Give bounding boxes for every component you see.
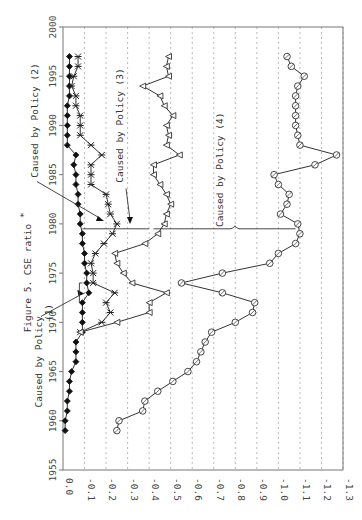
year-tick-label: 1980 (47, 212, 58, 235)
data-point (301, 73, 308, 80)
data-point (64, 132, 70, 138)
data-point (292, 102, 299, 109)
data-point (292, 93, 299, 100)
year-tick-label: 1965 (47, 360, 58, 383)
data-point (73, 172, 79, 178)
data-point (275, 250, 282, 257)
annotation-policy-1: Caused by Policy (33, 316, 44, 408)
data-point (116, 417, 123, 424)
data-point (297, 142, 304, 149)
value-tick-label: -0.8 (236, 478, 247, 501)
data-point (64, 398, 70, 404)
series-diamond (62, 54, 92, 434)
data-point (75, 191, 81, 197)
value-tick-label: 0.0 (64, 478, 75, 495)
year-tick-label: 1985 (47, 163, 58, 186)
value-tick-label: -1.1 (301, 478, 312, 501)
data-point (333, 152, 340, 159)
data-point (66, 63, 72, 69)
data-point (292, 122, 299, 129)
data-point (64, 113, 70, 119)
data-point (277, 211, 284, 218)
data-point (66, 93, 72, 99)
data-point (286, 191, 293, 198)
value-tick-label: -0.4 (150, 478, 161, 501)
data-point (88, 142, 95, 148)
data-point (107, 309, 114, 315)
year-tick-label: 1995 (47, 65, 58, 88)
data-point (66, 388, 72, 394)
axes (59, 27, 343, 470)
data-point (114, 427, 121, 434)
data-point (288, 63, 295, 70)
data-point (163, 191, 169, 197)
data-point (170, 378, 177, 385)
data-point (73, 349, 79, 355)
data-point (163, 290, 169, 296)
annotations: Figure 5. CSE ratio*Caused by Policy(1)C… (18, 63, 296, 407)
data-point (185, 368, 192, 375)
data-point (157, 182, 163, 188)
data-point (82, 250, 88, 256)
data-point (73, 339, 79, 345)
series-line-circle (117, 57, 337, 431)
year-tick-label: 1990 (47, 114, 58, 137)
data-point (77, 211, 83, 217)
data-point (92, 250, 99, 256)
data-point (71, 162, 77, 168)
data-point (294, 132, 301, 139)
value-tick-label: -0.7 (215, 478, 226, 501)
data-point (103, 300, 110, 306)
value-tick-label: -0.9 (258, 478, 269, 501)
data-point (251, 299, 258, 306)
value-tick-label: -1.0 (279, 478, 290, 501)
data-point (84, 270, 90, 276)
annotation-policy-4: Caused by Policy (4) (214, 113, 225, 227)
value-tick-label: -0.3 (129, 478, 140, 501)
data-point (79, 300, 85, 306)
data-point (294, 83, 301, 90)
data-point (178, 280, 185, 287)
data-point (219, 290, 226, 297)
data-point (66, 54, 72, 60)
data-point (249, 309, 256, 316)
data-point (64, 122, 70, 128)
data-point (114, 319, 120, 325)
value-tick-label: -0.1 (86, 478, 97, 501)
arrowhead (77, 290, 84, 296)
data-point (271, 171, 278, 178)
cse-ratio-chart: 0.0-0.1-0.2-0.3-0.4-0.5-0.6-0.7-0.8-0.9-… (0, 0, 362, 520)
value-tick-label: -0.6 (193, 478, 204, 501)
value-axis-ticks: 0.0-0.1-0.2-0.3-0.4-0.5-0.6-0.7-0.8-0.9-… (64, 478, 355, 501)
data-point (64, 408, 70, 414)
data-point (139, 408, 146, 415)
data-point (208, 329, 215, 336)
value-tick-label: -1.3 (344, 478, 355, 501)
series (62, 53, 340, 434)
value-tick-label: -0.5 (172, 478, 183, 501)
plot-frame (63, 27, 343, 470)
data-point (79, 319, 85, 325)
data-point (275, 181, 282, 188)
annotation-policy-3-arrow (126, 188, 130, 220)
annotation-policy-2: Caused by Policy (2) (29, 63, 40, 177)
year-axis-ticks: 1955196019651970197519801985199019952000 (47, 15, 58, 481)
data-point (292, 240, 299, 247)
data-point (86, 290, 92, 296)
data-point (142, 241, 148, 247)
data-point (154, 388, 161, 395)
data-point (142, 398, 149, 405)
year-tick-label: 2000 (47, 15, 58, 38)
data-point (73, 359, 79, 365)
data-point (109, 231, 116, 237)
data-point (292, 112, 299, 119)
chart-title: Figure 5. CSE ratio (22, 223, 33, 332)
data-point (284, 201, 291, 208)
data-point (73, 182, 79, 188)
data-point (161, 103, 167, 109)
data-point (113, 221, 120, 227)
data-point (266, 260, 273, 267)
data-point (79, 241, 85, 247)
series-triangle (77, 54, 182, 336)
data-point (98, 152, 105, 158)
